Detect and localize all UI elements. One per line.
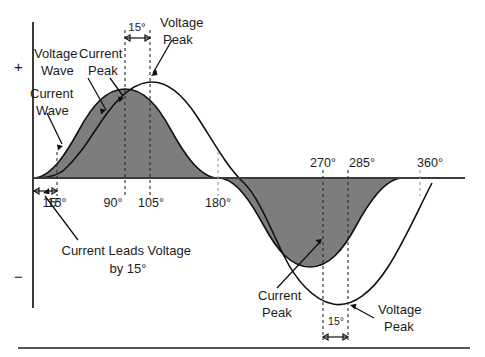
- dimension-left-label: 15°: [48, 196, 67, 210]
- tick-label-90: 90°: [104, 196, 123, 210]
- dimension-bottom-15deg: 15°: [323, 315, 348, 340]
- tick-label-360: 360°: [417, 156, 443, 170]
- voltage-current-phase-diagram: + − 15° 90° 105° 180° 270° 285° 360° 15°…: [0, 0, 485, 357]
- current-wave-label: Current Wave: [30, 86, 77, 118]
- voltage-wave-label-line2: Wave: [41, 63, 74, 78]
- current-peak-top-label: Current Peak: [79, 46, 126, 78]
- current-peak-bottom-line1: Current: [258, 288, 302, 303]
- current-wave-line2: Wave: [36, 103, 69, 118]
- voltage-wave-label-line1: Voltage: [34, 46, 77, 61]
- current-peak-top-line2: Peak: [88, 63, 118, 78]
- tick-label-180: 180°: [205, 196, 231, 210]
- current-peak-bottom-label: Current Peak: [258, 288, 305, 320]
- current-peak-top-line1: Current: [79, 46, 123, 61]
- phase-caption-line2: by 15°: [109, 261, 146, 276]
- current-wave-line1: Current: [30, 86, 74, 101]
- dimension-bottom-label: 15°: [328, 315, 344, 327]
- dimension-top-15deg: 15°: [125, 21, 150, 41]
- phase-caption-line1: Current Leads Voltage: [62, 243, 191, 258]
- tick-label-285: 285°: [349, 156, 375, 170]
- tick-label-105: 105°: [138, 196, 164, 210]
- voltage-peak-bottom-line1: Voltage: [378, 302, 421, 317]
- voltage-peak-bottom-label: Voltage Peak: [378, 302, 425, 334]
- voltage-wave-label: Voltage Wave: [34, 46, 81, 78]
- voltage-peak-top-line2: Peak: [163, 32, 193, 47]
- phase-caption: Current Leads Voltage by 15°: [62, 243, 195, 276]
- dimension-top-label: 15°: [128, 21, 145, 33]
- voltage-peak-top-label: Voltage Peak: [160, 15, 207, 47]
- voltage-peak-top-line1: Voltage: [160, 15, 203, 30]
- positive-sign: +: [14, 58, 23, 75]
- current-peak-bottom-line2: Peak: [262, 305, 292, 320]
- voltage-peak-bottom-line2: Peak: [384, 319, 414, 334]
- tick-label-270: 270°: [310, 156, 336, 170]
- negative-sign: −: [14, 268, 23, 285]
